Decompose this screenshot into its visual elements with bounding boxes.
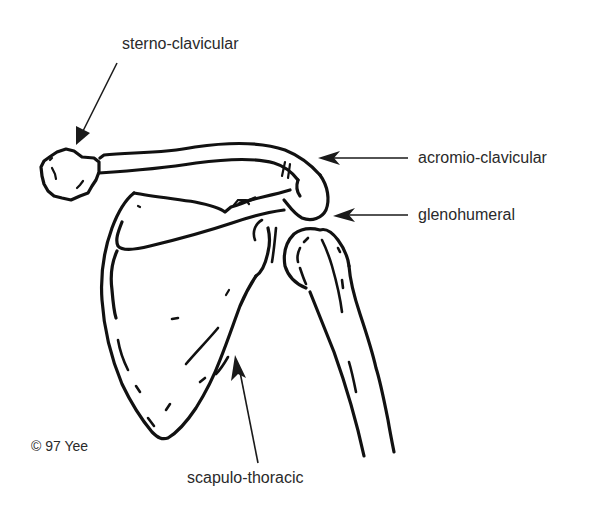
label-scapulo-thoracic: scapulo-thoracic (187, 470, 304, 486)
copyright-credit: © 97 Yee (31, 439, 88, 453)
label-acromio-clavicular: acromio-clavicular (418, 150, 547, 166)
humerus (284, 229, 394, 456)
label-glenohumeral: glenohumeral (418, 207, 515, 223)
arrow-scapulo-thoracic (231, 355, 258, 463)
arrow-sterno-clavicular (76, 63, 117, 145)
label-sterno-clavicular: sterno-clavicular (122, 36, 238, 52)
arrow-acromio-clavicular (318, 151, 408, 165)
sternal-end-of-clavicle (41, 149, 99, 200)
arrow-glenohumeral (333, 208, 408, 222)
scapula (101, 193, 284, 439)
clavicle (99, 144, 320, 180)
shoulder-diagram (0, 0, 612, 511)
